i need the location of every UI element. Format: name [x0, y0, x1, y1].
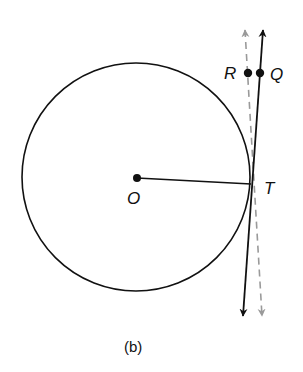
label-t: T: [264, 179, 276, 198]
label-r: R: [224, 64, 236, 83]
geometry-diagram: O T R Q (b): [0, 0, 303, 372]
radius-ot: [137, 178, 251, 184]
figure-caption: (b): [124, 338, 142, 355]
point-q: [256, 69, 264, 77]
point-r: [244, 69, 252, 77]
label-o: O: [127, 189, 140, 208]
point-o: [133, 174, 141, 182]
label-q: Q: [270, 65, 283, 84]
